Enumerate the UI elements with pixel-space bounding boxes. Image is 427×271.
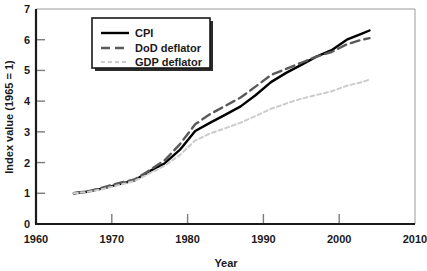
x-tick-label: 2010 [403,233,427,245]
y-tick-label: 0 [24,218,30,230]
y-tick-label: 1 [24,187,30,199]
x-tick-label: 1980 [175,233,199,245]
legend-label: CPI [135,27,153,39]
y-tick-label: 4 [24,95,31,107]
legend-label: GDP deflator [135,56,203,68]
y-tick-label: 5 [24,64,30,76]
line-chart: 01234567 196019701980199020002010 Year I… [0,0,427,271]
y-tick-label: 2 [24,157,30,169]
x-tick-label: 1960 [24,233,48,245]
chart-figure: 01234567 196019701980199020002010 Year I… [0,0,427,271]
chart-legend: CPIDoD deflatorGDP deflator [92,18,213,71]
y-tick-label: 3 [24,126,30,138]
x-tick-label: 2000 [327,233,351,245]
y-axis-title: Index value (1965 = 1) [3,60,15,174]
chart-background [0,0,427,271]
legend-label: DoD deflator [135,42,202,54]
x-tick-label: 1990 [251,233,275,245]
x-axis-title: Year [214,257,238,269]
y-tick-label: 7 [24,3,30,15]
y-tick-label: 6 [24,34,30,46]
x-tick-label: 1970 [100,233,124,245]
